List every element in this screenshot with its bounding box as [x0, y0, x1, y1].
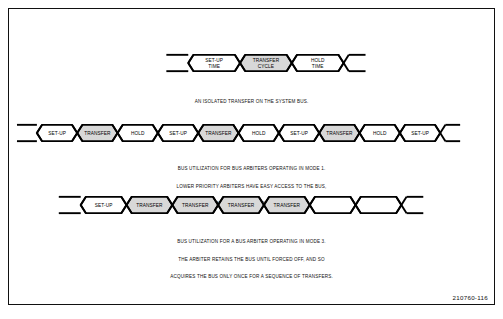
waveform-edge [401, 205, 406, 213]
waveform-edge [440, 125, 445, 133]
timing-diagram-isolated-transfer: SET-UPTIMETRANSFERCYCLEHOLDTIME [9, 47, 494, 79]
waveform-edge [401, 197, 406, 205]
waveform-edge [344, 55, 349, 63]
figure-number: 210760-116 [452, 294, 488, 301]
cell-label: TRANSFER [228, 203, 255, 208]
waveform-isolated-transfer: SET-UPTIMETRANSFERCYCLEHOLDTIME [9, 47, 494, 79]
caption-line: AN ISOLATED TRANSFER ON THE SYSTEM BUS. [9, 99, 494, 105]
cell-label: TRANSFER [253, 58, 280, 63]
cell-label: SET-UP [205, 58, 223, 63]
caption-line: BUS UTILIZATION FOR BUS ARBITERS OPERATI… [9, 166, 494, 172]
cell-label: SET-UP [48, 131, 66, 136]
cell-label: HOLD [311, 58, 325, 63]
cell-label: TIME [208, 64, 220, 69]
cell-label: SET-UP [411, 131, 429, 136]
bus-cell [356, 197, 402, 213]
cell-label: SET-UP [290, 131, 308, 136]
bus-cell [310, 197, 356, 213]
cell-label: HOLD [373, 131, 387, 136]
caption-line: THE ARBITER RETAINS THE BUS UNTIL FORCED… [9, 257, 494, 263]
figure-frame: SET-UPTIMETRANSFERCYCLEHOLDTIME AN ISOLA… [8, 8, 495, 305]
cell-label: SET-UP [95, 203, 113, 208]
caption-line: BUS UTILIZATION FOR A BUS ARBITER OPERAT… [9, 239, 494, 245]
timing-diagram-mode-3: SET-UPTRANSFERTRANSFERTRANSFERTRANSFER [9, 189, 494, 221]
cell-label: TIME [312, 64, 324, 69]
cell-label: TRANSFER [326, 131, 353, 136]
cell-label: CYCLE [258, 64, 274, 69]
cell-label: HOLD [131, 131, 145, 136]
cell-label: SET-UP [169, 131, 187, 136]
cell-label: TRANSFER [274, 203, 301, 208]
cell-label: TRANSFER [84, 131, 111, 136]
caption-isolated-transfer: AN ISOLATED TRANSFER ON THE SYSTEM BUS. [9, 87, 494, 117]
waveform-edge [344, 63, 349, 71]
caption-line: ACQUIRES THE BUS ONLY ONCE FOR A SEQUENC… [9, 274, 494, 280]
waveform-mode-3: SET-UPTRANSFERTRANSFERTRANSFERTRANSFER [9, 189, 494, 221]
caption-text-1: AN ISOLATED TRANSFER ON THE SYSTEM BUS. [9, 87, 494, 117]
waveform-edge [440, 133, 445, 141]
cell-label: HOLD [252, 131, 266, 136]
waveform-mode-1: SET-UPTRANSFERHOLDSET-UPTRANSFERHOLDSET-… [9, 117, 494, 149]
cell-label: TRANSFER [182, 203, 209, 208]
caption-text-3: BUS UTILIZATION FOR A BUS ARBITER OPERAT… [9, 227, 494, 292]
caption-mode-3: BUS UTILIZATION FOR A BUS ARBITER OPERAT… [9, 227, 494, 292]
cell-label: TRANSFER [136, 203, 163, 208]
timing-diagram-mode-1: SET-UPTRANSFERHOLDSET-UPTRANSFERHOLDSET-… [9, 117, 494, 149]
cell-label: TRANSFER [205, 131, 232, 136]
